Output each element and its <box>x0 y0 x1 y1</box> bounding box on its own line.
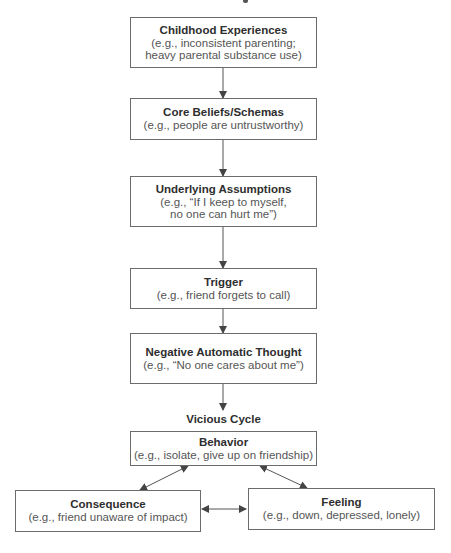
node-description: (e.g., friend unaware of impact) <box>28 511 187 524</box>
node-behavior: Behavior (e.g., isolate, give up on frie… <box>130 431 317 466</box>
arrow-behavior-feeling <box>260 466 307 488</box>
node-description: (e.g., friend forgets to call) <box>157 289 291 302</box>
node-title: Behavior <box>199 436 248 449</box>
node-description: (e.g., people are untrustworthy) <box>144 119 304 132</box>
node-title: Negative Automatic Thought <box>145 346 301 359</box>
node-consequence: Consequence (e.g., friend unaware of imp… <box>15 490 201 532</box>
vicious-cycle-label: Vicious Cycle <box>130 413 317 425</box>
node-description: (e.g., down, depressed, lonely) <box>263 509 420 522</box>
node-negative-automatic-thought: Negative Automatic Thought (e.g., “No on… <box>130 333 317 384</box>
node-description: (e.g., inconsistent parenting; heavy par… <box>145 37 302 62</box>
node-title: Trigger <box>204 276 243 289</box>
node-title: Underlying Assumptions <box>156 183 292 196</box>
node-underlying-assumptions: Underlying Assumptions (e.g., “If I keep… <box>130 176 317 227</box>
node-childhood-experiences: Childhood Experiences (e.g., inconsisten… <box>130 17 317 68</box>
node-description: (e.g., “No one cares about me”) <box>143 359 303 372</box>
arrow-behavior-consequence <box>140 466 188 490</box>
node-title: Core Beliefs/Schemas <box>163 106 284 119</box>
node-description: (e.g., isolate, give up on friendship) <box>134 449 313 462</box>
node-title: Feeling <box>321 496 361 509</box>
node-trigger: Trigger (e.g., friend forgets to call) <box>130 268 317 309</box>
node-feeling: Feeling (e.g., down, depressed, lonely) <box>248 488 435 530</box>
node-title: Consequence <box>70 498 145 511</box>
node-title: Childhood Experiences <box>160 24 288 37</box>
node-core-beliefs: Core Beliefs/Schemas (e.g., people are u… <box>130 98 317 140</box>
node-description: (e.g., “If I keep to myself, no one can … <box>160 196 287 221</box>
